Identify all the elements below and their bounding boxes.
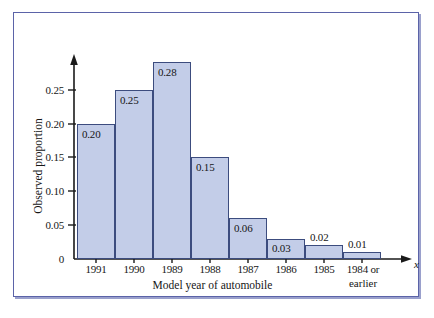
bar-value-label-1991: 0.20 [82, 128, 100, 140]
bar-value-label-1990: 0.25 [120, 94, 138, 106]
figure-container: 0.20 0.25 0.28 0.15 0.06 0.03 0.02 0.01 … [0, 0, 434, 318]
bar-1985[interactable] [305, 245, 343, 259]
y-axis-arrowhead [70, 54, 78, 65]
bar-1991[interactable] [77, 124, 115, 259]
bar-value-label-1986: 0.03 [272, 242, 290, 254]
y-tick-marks [68, 90, 76, 225]
bar-1990[interactable] [115, 90, 153, 259]
y-tick-label-0.25: 0.25 [22, 84, 64, 96]
plot-area: 0.20 0.25 0.28 0.15 0.06 0.03 0.02 0.01 … [0, 0, 434, 318]
x-axis-arrowhead [401, 255, 412, 263]
bar-value-label-1989: 0.28 [158, 66, 176, 78]
x-tick-label-1984-continuation: earlier [333, 277, 393, 289]
bar-value-label-1988: 0.15 [196, 161, 214, 173]
x-tick-label-1984: 1984 or [333, 263, 393, 275]
bar-value-label-1984: 0.01 [348, 238, 366, 250]
x-axis-title: Model year of automobile [105, 279, 320, 291]
y-axis-title: Observed proportion [32, 96, 44, 236]
y-tick-label-0: 0 [22, 253, 64, 265]
x-axis-variable-label: x [414, 258, 419, 270]
bar-1989[interactable] [153, 62, 191, 259]
bar-value-label-1985: 0.02 [310, 231, 328, 243]
bar-1984[interactable] [343, 252, 381, 259]
bar-value-label-1987: 0.06 [234, 222, 252, 234]
